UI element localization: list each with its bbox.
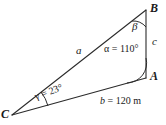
side-label-b-value: = 120 m <box>108 95 141 106</box>
angle-label-alpha: α = 110° <box>104 44 139 54</box>
vertex-label-C: C <box>1 108 9 120</box>
triangle-figure <box>0 0 166 125</box>
side-label-a: a <box>76 45 82 56</box>
angle-arc-alpha <box>127 58 147 83</box>
side-label-b-variable: b <box>100 95 105 106</box>
side-label-b: b = 120 m <box>100 96 141 106</box>
vertex-label-B: B <box>150 2 158 14</box>
vertex-label-A: A <box>150 70 158 82</box>
side-label-c: c <box>152 36 157 47</box>
angle-label-beta: β <box>132 21 137 32</box>
geometry-diagram: B A C a c b = 120 m α = 110° β γ = 23° <box>0 0 166 125</box>
